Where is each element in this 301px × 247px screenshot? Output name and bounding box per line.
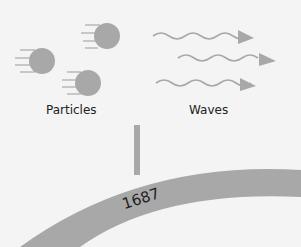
timeline-arc bbox=[20, 169, 301, 247]
particles-label: Particles bbox=[46, 103, 97, 117]
particle-icon bbox=[15, 48, 55, 74]
wave-arrow-icon bbox=[156, 78, 256, 91]
timeline-marker bbox=[134, 125, 140, 175]
particle-icon bbox=[62, 70, 101, 96]
wave-arrow-icon bbox=[153, 30, 254, 44]
wave-arrow-icon bbox=[178, 53, 276, 66]
diagram-canvas bbox=[0, 0, 301, 247]
particle-icon bbox=[81, 23, 120, 49]
waves-label: Waves bbox=[189, 103, 228, 117]
